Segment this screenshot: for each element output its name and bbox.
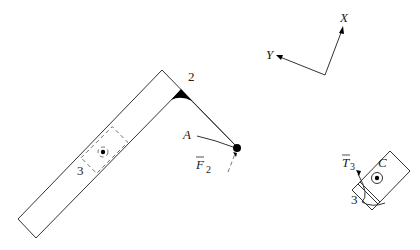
fillet-weld-icon bbox=[171, 89, 192, 101]
y-arrowhead-icon bbox=[276, 55, 283, 60]
pin-point-icon bbox=[233, 144, 241, 152]
slider-3 bbox=[81, 127, 128, 174]
torque-label: T bbox=[342, 155, 350, 170]
body-c-label: C bbox=[378, 155, 387, 170]
x-arrowhead-icon bbox=[339, 26, 344, 34]
force-label: F bbox=[195, 157, 205, 172]
link-number-label: 2 bbox=[188, 69, 195, 84]
force-f2-arrow bbox=[228, 152, 237, 172]
axis-x-label: X bbox=[339, 10, 349, 25]
body-c-number-label: 3 bbox=[351, 192, 358, 207]
link-2 bbox=[18, 70, 237, 238]
axis-y-label: Y bbox=[266, 47, 275, 62]
torque-subscript: 3 bbox=[350, 161, 355, 172]
slider-pin-icon bbox=[101, 150, 105, 154]
force-subscript: 2 bbox=[206, 164, 211, 175]
mechanism-diagram: A 2 F 2 3 X Y T 3 C 3 bbox=[0, 0, 420, 250]
point-a-label: A bbox=[182, 127, 191, 142]
body-c-pin-icon bbox=[375, 176, 379, 180]
coordinate-axes bbox=[276, 26, 344, 75]
slider-number-label: 3 bbox=[77, 163, 84, 178]
